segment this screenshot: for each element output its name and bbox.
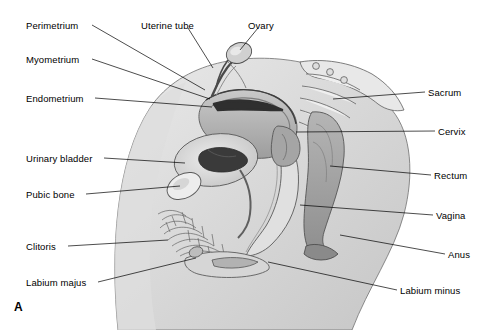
panel-letter: A: [14, 300, 23, 314]
leader-perimetrium: [92, 25, 205, 90]
label-urinary-bladder: Urinary bladder: [26, 153, 92, 164]
leader-uterine-tube: [188, 28, 213, 68]
label-perimetrium: Perimetrium: [26, 20, 78, 31]
label-clitoris: Clitoris: [26, 241, 56, 252]
label-ovary: Ovary: [248, 20, 274, 31]
label-vagina: Vagina: [436, 210, 465, 221]
label-cervix: Cervix: [438, 126, 466, 137]
label-labium-majus: Labium majus: [26, 277, 86, 288]
label-myometrium: Myometrium: [26, 54, 79, 65]
label-rectum: Rectum: [434, 170, 467, 181]
label-anus: Anus: [448, 249, 470, 260]
label-uterine-tube: Uterine tube: [141, 20, 194, 31]
label-labium-minus: Labium minus: [400, 285, 460, 296]
label-endometrium: Endometrium: [26, 93, 84, 104]
label-pubic-bone: Pubic bone: [26, 189, 75, 200]
figure-canvas: PerimetriumMyometriumEndometriumUrinary …: [0, 0, 494, 330]
label-sacrum: Sacrum: [428, 87, 461, 98]
